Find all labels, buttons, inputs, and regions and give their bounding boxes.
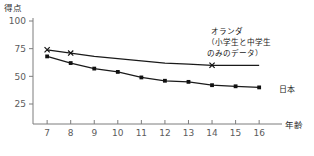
data-point-marker: [92, 67, 96, 71]
x-tick-label: 13: [183, 128, 194, 138]
y-tick-label: 100: [9, 16, 26, 26]
y-axis-title: 得点: [4, 3, 22, 13]
x-axis-ticks: 78910111213141516: [44, 120, 265, 138]
netherlands-annotation-line-2: （小学生と中学生: [207, 37, 271, 47]
y-tick-label: 25: [15, 99, 26, 109]
y-tick-label: 50: [15, 72, 27, 82]
chart-canvas: 100755025 78910111213141516 得点 年齢 オランダ （…: [0, 0, 314, 156]
x-tick-label: 15: [230, 128, 241, 138]
data-point-marker: [234, 84, 238, 88]
x-tick-label: 9: [91, 128, 97, 138]
netherlands-annotation-line-3: のみのデータ）: [207, 48, 263, 58]
x-axis-title: 年齢: [285, 120, 303, 130]
x-tick-label: 8: [68, 128, 74, 138]
data-point-marker: [163, 79, 167, 83]
data-point-marker: [187, 80, 191, 84]
data-point-marker: [116, 70, 120, 74]
y-tick-label: 75: [15, 44, 26, 54]
x-tick-label: 16: [253, 128, 265, 138]
data-point-marker: [139, 76, 143, 80]
netherlands-annotation-line-1: オランダ: [211, 26, 243, 36]
data-point-marker: [210, 83, 214, 87]
x-tick-label: 7: [44, 128, 50, 138]
data-point-marker: [45, 55, 49, 59]
x-tick-label: 12: [159, 128, 170, 138]
x-tick-label: 14: [206, 128, 218, 138]
data-point-marker: [257, 86, 261, 90]
data-point-marker: [69, 61, 73, 65]
series-line: [47, 56, 259, 87]
japan-series-label: 日本: [279, 84, 295, 94]
x-tick-label: 11: [136, 128, 147, 138]
axes: [33, 18, 282, 124]
y-axis-ticks: 100755025: [9, 16, 33, 109]
x-tick-label: 10: [112, 128, 124, 138]
line-chart: 100755025 78910111213141516 得点 年齢 オランダ （…: [0, 0, 314, 156]
netherlands-annotation: オランダ （小学生と中学生 のみのデータ）: [207, 26, 271, 58]
series-japan: [45, 55, 261, 90]
